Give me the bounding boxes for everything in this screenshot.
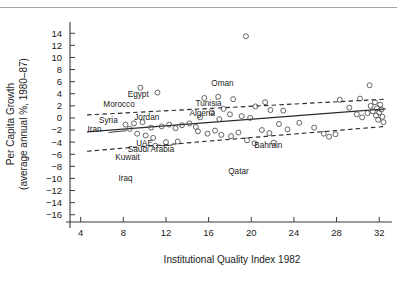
- data-point: [167, 122, 172, 127]
- y-tick-label: 0: [57, 112, 62, 123]
- data-point: [213, 128, 218, 133]
- y-tick-label: −10: [46, 173, 62, 184]
- data-point: [244, 138, 249, 143]
- data-point: [219, 132, 224, 137]
- y-tick-label: −6: [51, 149, 62, 160]
- x-tick-label: 20: [246, 227, 257, 238]
- label-leader-line: [108, 131, 126, 133]
- data-point: [281, 108, 286, 113]
- y-tick-label: 8: [57, 64, 62, 75]
- x-tick-labels: 48121620242832: [78, 227, 384, 238]
- data-point: [365, 111, 370, 116]
- data-point: [337, 97, 342, 102]
- country-label: Jordan: [134, 113, 159, 122]
- data-point: [175, 139, 180, 144]
- data-point: [236, 130, 241, 135]
- data-point: [221, 106, 226, 111]
- data-point: [285, 127, 290, 132]
- country-label: Qatar: [228, 167, 249, 176]
- data-point: [229, 134, 234, 139]
- data-point: [321, 131, 326, 136]
- data-point: [227, 112, 232, 117]
- y-axis-title-line1: Per Capita Growth: [5, 83, 16, 165]
- country-label: Iran: [87, 125, 102, 134]
- country-label: Morocco: [103, 100, 135, 109]
- data-point: [276, 122, 281, 127]
- data-point: [267, 131, 272, 136]
- data-point: [268, 108, 273, 113]
- data-point: [372, 100, 377, 105]
- y-tick-label: −12: [46, 185, 62, 196]
- data-point: [368, 103, 373, 108]
- data-point: [327, 134, 332, 139]
- country-label: Oman: [211, 79, 234, 88]
- y-tick-label: 12: [51, 40, 62, 51]
- y-tick-label: 2: [57, 100, 62, 111]
- y-tick-label: −4: [51, 137, 62, 148]
- data-point: [367, 83, 372, 88]
- country-label: Tunisia: [196, 99, 223, 108]
- country-label: Kuwait: [115, 153, 140, 162]
- x-tick-label: 24: [289, 227, 300, 238]
- x-tick-label: 4: [78, 227, 83, 238]
- data-point: [195, 129, 200, 134]
- x-tick-label: 8: [121, 227, 126, 238]
- y-tick-label: 4: [57, 88, 62, 99]
- y-tick-labels: 14121086420−2−4−6−8−10−12−14−16: [46, 28, 62, 220]
- x-tick-label: 16: [203, 227, 214, 238]
- country-label: Syria: [99, 116, 118, 125]
- data-point: [217, 117, 222, 122]
- data-point: [312, 125, 317, 130]
- x-tick-label: 32: [374, 227, 385, 238]
- chart-figure: EgyptOmanMoroccoTunisiaAlgeriaSyriaJorda…: [0, 0, 397, 282]
- data-point: [378, 102, 383, 107]
- data-point: [135, 131, 140, 136]
- data-point: [380, 114, 385, 119]
- y-tick-label: −8: [51, 161, 62, 172]
- data-points-group: [123, 34, 386, 148]
- y-tick-label: 10: [51, 52, 62, 63]
- x-axis-title: Institutional Quality Index 1982: [164, 254, 301, 265]
- data-point: [123, 122, 128, 127]
- data-point: [205, 131, 210, 136]
- country-label: Bahrain: [254, 141, 283, 150]
- scatter-plot-svg: EgyptOmanMoroccoTunisiaAlgeriaSyriaJorda…: [0, 0, 397, 282]
- data-point: [347, 105, 352, 110]
- x-tick-label: 12: [161, 227, 172, 238]
- data-point: [243, 34, 248, 39]
- data-point: [143, 133, 148, 138]
- y-tick-label: 14: [51, 28, 62, 39]
- data-point: [297, 120, 302, 125]
- data-point: [259, 128, 264, 133]
- y-tick-label: −16: [46, 209, 62, 220]
- y-axis-title-line2: (average annual %, 1980–87): [18, 58, 29, 190]
- country-label: Algeria: [189, 109, 215, 118]
- data-point: [155, 90, 160, 95]
- data-point: [239, 114, 244, 119]
- country-label: Egypt: [128, 90, 150, 99]
- data-point: [333, 132, 338, 137]
- data-point: [381, 120, 386, 125]
- data-point: [360, 115, 365, 120]
- data-point: [263, 100, 268, 105]
- data-point: [354, 112, 359, 117]
- x-tick-label: 28: [331, 227, 342, 238]
- data-point: [163, 140, 168, 145]
- y-tick-label: 6: [57, 76, 62, 87]
- y-tick-label: −2: [51, 124, 62, 135]
- country-label: Iraq: [118, 174, 133, 183]
- y-tick-label: −14: [46, 197, 62, 208]
- data-point: [231, 97, 236, 102]
- data-point: [173, 126, 178, 131]
